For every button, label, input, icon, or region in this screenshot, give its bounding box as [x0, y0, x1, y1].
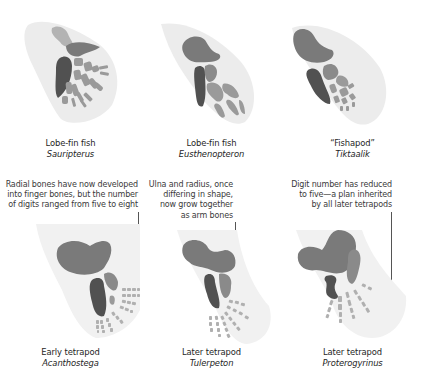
genus-name: Acanthostega — [0, 358, 141, 369]
common-name: Early tetrapod — [0, 347, 141, 358]
annotation-line: now grow together — [145, 200, 233, 210]
acanthostega-limb-illustration — [0, 220, 141, 350]
proterogyrinus-limb-illustration — [282, 220, 424, 350]
panel-tiktaalik: “Fishapod” Tiktaalik — [282, 0, 423, 165]
ulna-bone — [194, 66, 205, 107]
panel-proterogyrinus: Digit number has reduced to five—a plan … — [282, 150, 423, 383]
panel-acanthostega: Radial bones have now developed into fin… — [0, 150, 141, 383]
genus-name: Tulerpeton — [141, 358, 282, 369]
annotation-tulerpeton: Ulna and radius, once differing in shape… — [145, 180, 233, 221]
annotation-line: differing in shape, — [145, 190, 233, 200]
panel-sauripterus: Lobe-fin fish Sauripterus — [0, 0, 141, 165]
tulerpeton-limb-illustration — [141, 226, 282, 356]
limb-outline — [36, 224, 140, 338]
common-name: “Fishapod” — [282, 138, 423, 149]
carpal-bone — [109, 295, 114, 304]
common-name: Lobe-fin fish — [141, 138, 282, 149]
annotation-line: of digits ranged from five to eight — [2, 200, 138, 210]
annotation-line: to five—a plan inherited — [288, 190, 392, 200]
caption-proterogyrinus: Later tetrapod Proterogyrinus — [282, 347, 423, 369]
common-name: Later tetrapod — [141, 347, 282, 358]
annotation-line: as arm bones — [145, 211, 233, 221]
common-name: Lobe-fin fish — [0, 138, 141, 149]
panel-eusthenopteron: Lobe-fin fish Eusthenopteron — [141, 0, 282, 165]
annotation-line: by all later tetrapods — [288, 200, 392, 210]
annotation-line: Radial bones have now developed — [2, 180, 138, 190]
annotation-line: Ulna and radius, once — [145, 180, 233, 190]
common-name: Later tetrapod — [282, 347, 423, 358]
caption-tulerpeton: Later tetrapod Tulerpeton — [141, 347, 282, 369]
sauripterus-fin-illustration — [0, 0, 141, 130]
annotation-line: Digit number has reduced — [288, 180, 392, 190]
eusthenopteron-fin-illustration — [141, 0, 282, 130]
tiktaalik-fin-illustration — [282, 0, 424, 130]
annotation-acanthostega: Radial bones have now developed into fin… — [2, 180, 138, 211]
caption-acanthostega: Early tetrapod Acanthostega — [0, 347, 141, 369]
annotation-proterogyrinus: Digit number has reduced to five—a plan … — [288, 180, 392, 211]
panel-tulerpeton: Ulna and radius, once differing in shape… — [141, 150, 282, 383]
annotation-line: into finger bones, but the number — [2, 190, 138, 200]
genus-name: Proterogyrinus — [282, 358, 423, 369]
